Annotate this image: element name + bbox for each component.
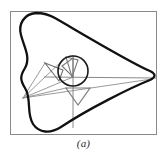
figure-drawing (0, 0, 167, 155)
figure-caption: (a) (0, 136, 167, 150)
figure-container: (a) (0, 0, 167, 155)
